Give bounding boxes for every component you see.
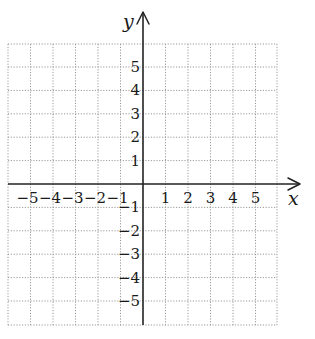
y-tick-label: −5 [118, 292, 140, 310]
x-tick-label: −5 [16, 189, 38, 207]
y-tick-label: −3 [118, 245, 140, 263]
x-tick-label: 5 [251, 189, 261, 207]
x-tick-label: 3 [206, 189, 216, 207]
x-tick-label: 4 [228, 189, 238, 207]
y-tick-label: 1 [130, 152, 140, 170]
x-tick-label: 2 [183, 189, 193, 207]
x-tick-label: 1 [161, 189, 171, 207]
y-tick-label: −1 [118, 198, 140, 216]
y-tick-label: 3 [130, 105, 140, 123]
x-tick-label: −2 [84, 189, 106, 207]
y-tick-label: −4 [118, 269, 140, 287]
coordinate-plane: −5−4−3−2−112345 −5−4−3−2−112345 x y [0, 0, 315, 339]
y-tick-label: 4 [130, 81, 140, 99]
y-tick-label: −2 [118, 222, 140, 240]
x-tick-label: −4 [39, 189, 61, 207]
y-axis-label: y [122, 10, 134, 32]
x-axis-label: x [288, 187, 299, 209]
y-tick-label: 2 [130, 128, 140, 146]
x-tick-label: −3 [61, 189, 83, 207]
y-tick-label: 5 [130, 58, 140, 76]
